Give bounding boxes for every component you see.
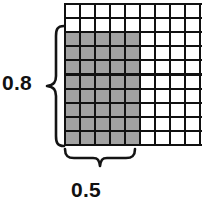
- grid-cell-empty: [141, 90, 154, 102]
- grid-cell-empty: [201, 132, 202, 144]
- grid-cell-empty: [171, 19, 184, 31]
- hundredths-grid: [64, 3, 202, 146]
- grid-cell-shaded: [66, 118, 79, 130]
- grid-cell-empty: [186, 61, 199, 73]
- grid-cell-shaded: [126, 104, 139, 116]
- grid-cell-empty: [171, 104, 184, 116]
- grid-cell-shaded: [126, 132, 139, 144]
- vertical-brace: [40, 24, 66, 148]
- grid-cell-empty: [186, 132, 199, 144]
- grid-cell-shaded: [126, 47, 139, 59]
- grid-cell-empty: [186, 104, 199, 116]
- grid-cell-shaded: [111, 61, 124, 73]
- grid-cell-empty: [141, 118, 154, 130]
- grid-cell-shaded: [96, 90, 109, 102]
- horizontal-brace: [62, 147, 138, 173]
- grid-cell-empty: [201, 104, 202, 116]
- grid-cell-empty: [66, 5, 79, 17]
- grid-cell-empty: [141, 47, 154, 59]
- grid-cell-shaded: [66, 33, 79, 45]
- height-dimension-label: 0.8: [2, 72, 32, 93]
- grid-cell-shaded: [111, 47, 124, 59]
- grid-cell-empty: [156, 5, 169, 17]
- grid-cell-empty: [171, 61, 184, 73]
- grid-cell-empty: [156, 132, 169, 144]
- grid-cell-empty: [141, 19, 154, 31]
- grid-cell-shaded: [111, 132, 124, 144]
- grid-cell-empty: [171, 5, 184, 17]
- grid-cell-shaded: [96, 76, 109, 88]
- grid-cell-empty: [141, 132, 154, 144]
- grid-cell-shaded: [81, 76, 94, 88]
- grid-cell-shaded: [126, 33, 139, 45]
- grid-cell-empty: [156, 33, 169, 45]
- grid-cell-empty: [141, 33, 154, 45]
- figure-canvas: 0.8 0.5: [0, 0, 202, 210]
- grid-cell-empty: [156, 61, 169, 73]
- grid-cell-shaded: [66, 47, 79, 59]
- width-dimension-label: 0.5: [71, 179, 101, 200]
- grid-cell-shaded: [81, 47, 94, 59]
- grid-cell-empty: [201, 33, 202, 45]
- grid-cell-shaded: [66, 90, 79, 102]
- grid-cell-empty: [171, 118, 184, 130]
- grid-cell-empty: [81, 19, 94, 31]
- grid-cell-empty: [141, 5, 154, 17]
- grid-cell-empty: [66, 19, 79, 31]
- grid-cell-empty: [156, 47, 169, 59]
- grid-cell-shaded: [111, 104, 124, 116]
- grid-cell-empty: [96, 19, 109, 31]
- grid-cell-shaded: [81, 61, 94, 73]
- grid-cell-empty: [156, 19, 169, 31]
- grid-cell-shaded: [111, 33, 124, 45]
- grid-cell-empty: [186, 90, 199, 102]
- grid-cell-shaded: [66, 104, 79, 116]
- grid-cell-empty: [126, 5, 139, 17]
- grid-cell-empty: [186, 76, 199, 88]
- grid-cell-shaded: [126, 61, 139, 73]
- grid-cell-shaded: [81, 132, 94, 144]
- grid-cell-shaded: [96, 132, 109, 144]
- grid-cell-empty: [126, 19, 139, 31]
- grid-cell-shaded: [81, 118, 94, 130]
- grid-cell-shaded: [126, 76, 139, 88]
- grid-cell-shaded: [111, 90, 124, 102]
- grid-cell-empty: [201, 47, 202, 59]
- grid-cell-empty: [186, 47, 199, 59]
- grid-cell-empty: [81, 5, 94, 17]
- grid-cell-empty: [201, 61, 202, 73]
- grid-cell-empty: [171, 90, 184, 102]
- grid-cell-shaded: [96, 47, 109, 59]
- grid-cell-shaded: [96, 33, 109, 45]
- grid-cell-empty: [156, 90, 169, 102]
- grid-cell-shaded: [96, 118, 109, 130]
- grid-cell-shaded: [66, 132, 79, 144]
- grid-cell-empty: [96, 5, 109, 17]
- grid-cell-empty: [111, 5, 124, 17]
- grid-cell-empty: [201, 90, 202, 102]
- grid-cell-empty: [111, 19, 124, 31]
- grid-cell-shaded: [111, 118, 124, 130]
- grid-cell-empty: [186, 33, 199, 45]
- grid-cell-shaded: [96, 61, 109, 73]
- grid-cell-empty: [186, 5, 199, 17]
- grid-cell-shaded: [81, 104, 94, 116]
- grid-cell-empty: [141, 76, 154, 88]
- grid-cell-empty: [186, 19, 199, 31]
- grid-cell-empty: [171, 132, 184, 144]
- grid-cell-empty: [171, 33, 184, 45]
- grid-cell-empty: [201, 76, 202, 88]
- grid-cell-shaded: [111, 76, 124, 88]
- grid-cell-shaded: [81, 33, 94, 45]
- grid-cell-empty: [156, 104, 169, 116]
- grid-cell-shaded: [126, 118, 139, 130]
- grid-cell-empty: [141, 104, 154, 116]
- area-model-grid-container: [64, 3, 202, 146]
- grid-cell-empty: [141, 61, 154, 73]
- grid-cell-empty: [156, 118, 169, 130]
- grid-cell-shaded: [66, 76, 79, 88]
- grid-cell-shaded: [96, 104, 109, 116]
- grid-cell-empty: [156, 76, 169, 88]
- grid-cell-empty: [201, 118, 202, 130]
- grid-cell-empty: [171, 47, 184, 59]
